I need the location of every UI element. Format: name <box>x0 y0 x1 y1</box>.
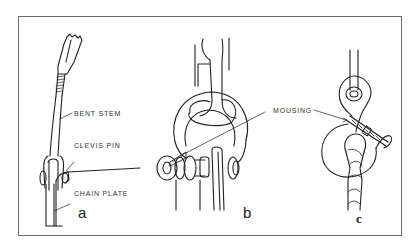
panel-c-drawing <box>314 50 392 210</box>
panel-b-drawing <box>157 38 265 210</box>
panel-letter-b: b <box>243 205 251 220</box>
rigging-illustration <box>0 0 416 249</box>
panel-letter-a: a <box>78 205 86 220</box>
callout-clevis-pin: CLEVIS PIN <box>74 142 121 149</box>
panel-a-drawing <box>40 34 140 226</box>
callout-bent-stem: BENT STEM <box>74 110 121 117</box>
panel-letter-c: c <box>356 212 362 225</box>
callout-chain-plate: CHAIN PLATE <box>74 190 128 197</box>
callout-mousing: MOUSING <box>273 107 312 114</box>
